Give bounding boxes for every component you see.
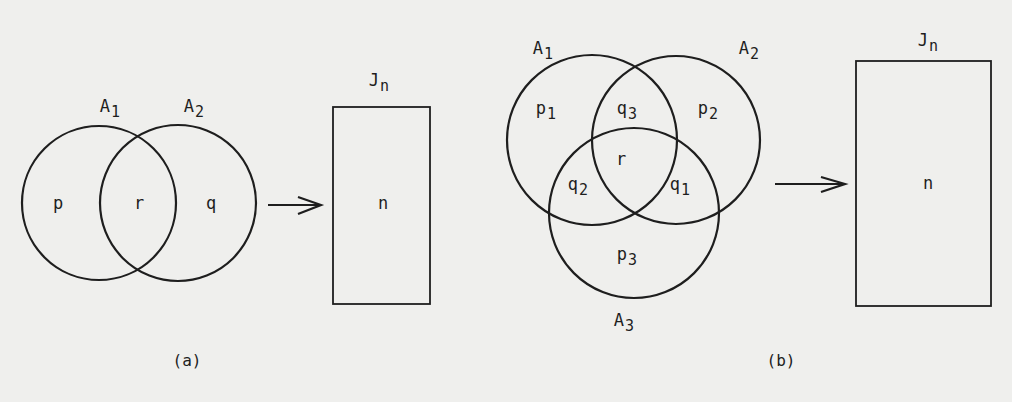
diagram-canvas — [0, 0, 1012, 402]
set-label-a2-b: A2 — [739, 40, 759, 57]
region-label-p2: p2 — [698, 100, 718, 117]
region-label-p: p — [53, 195, 63, 212]
region-label-p1: p1 — [536, 100, 556, 117]
arrow-b — [775, 177, 845, 192]
region-label-r-b: r — [616, 151, 626, 168]
region-label-q3: q3 — [617, 100, 637, 117]
caption-a: (a) — [173, 353, 202, 369]
caption-b: (b) — [767, 353, 796, 369]
target-content-n-b: n — [923, 175, 933, 192]
set-label-a1-a: A1 — [100, 98, 120, 115]
region-label-r-a: r — [134, 195, 144, 212]
target-content-n-a: n — [378, 195, 388, 212]
region-label-q2: q2 — [568, 176, 588, 193]
region-label-p3: p3 — [617, 246, 637, 263]
set-a2-circle-a — [100, 125, 256, 281]
set-label-a2-a: A2 — [184, 98, 204, 115]
region-label-q1: q1 — [670, 176, 690, 193]
set-label-a3-b: A3 — [614, 312, 634, 329]
target-label-jn-b: Jn — [918, 32, 938, 49]
target-label-jn-a: Jn — [369, 72, 389, 89]
region-label-q: q — [206, 195, 216, 212]
set-label-a1-b: A1 — [533, 40, 553, 57]
arrow-a — [268, 197, 321, 214]
figure: A1 A2 p r q Jn n (a) A1 A2 A3 p1 p2 p3 q… — [0, 0, 1012, 402]
